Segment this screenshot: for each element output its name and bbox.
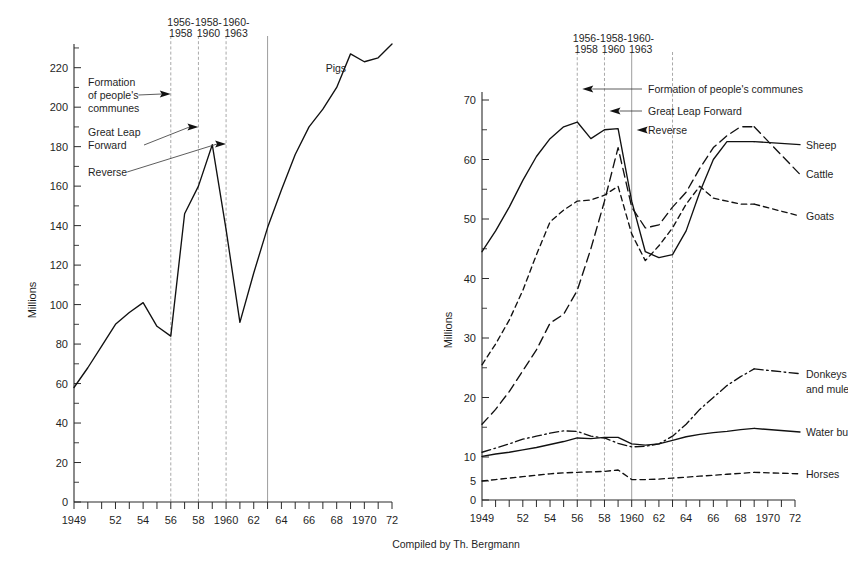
pigs-y-tick-label-20: 20	[56, 457, 68, 469]
chart-pigs-panel: 1956-19581958-19601960-1963 020406080100…	[0, 0, 424, 579]
livestock-series-group	[482, 122, 754, 481]
livestock-line-donkeys-and-mules	[482, 369, 754, 452]
pigs-x-tick-label-1960: 1960	[214, 514, 238, 526]
livestock-event-label-1956-line2: 1958	[575, 43, 599, 55]
livestock-line-horses	[482, 470, 754, 481]
pigs-x-tick-label-1952: 52	[109, 514, 121, 526]
livestock-x-tick-label-1968: 68	[734, 512, 746, 524]
pigs-annotation-leader-reverse	[127, 144, 217, 172]
livestock-y-tick-label-5: 5	[470, 475, 476, 487]
livestock-label-connector-water-buffalo	[754, 428, 800, 432]
pigs-y-tick-label-0: 0	[62, 496, 68, 508]
livestock-line-cattle	[482, 127, 754, 425]
livestock-line-water-buffalo	[482, 428, 754, 456]
livestock-x-tick-label-1958: 58	[598, 512, 610, 524]
pigs-x-tick-label-1949: 1949	[62, 514, 86, 526]
livestock-line-sheep	[482, 122, 754, 258]
livestock-y-tick-label-30: 30	[464, 332, 476, 344]
pigs-x-tick-label-1968: 68	[331, 514, 343, 526]
livestock-label-goats: Goats	[806, 210, 834, 222]
livestock-label-horses: Horses	[806, 468, 839, 480]
pigs-x-tick-label-1964: 64	[275, 514, 287, 526]
pigs-annotation-glf-line1: Great Leap	[88, 126, 141, 138]
pigs-y-tick-label-180: 180	[50, 141, 68, 153]
chart-livestock-panel: 1956-19581958-19601960-1963 051020304050…	[420, 0, 848, 579]
livestock-label-cattle: Cattle	[806, 168, 834, 180]
pigs-x-tick-label-1958: 58	[192, 514, 204, 526]
pigs-x-tick-label-1972: 72	[386, 514, 398, 526]
pigs-annotation-reverse-line1: Reverse	[88, 166, 127, 178]
livestock-y-axis-title: Millions	[442, 311, 454, 348]
pigs-x-tick-label-1956: 56	[165, 514, 177, 526]
pigs-y-tick-label-40: 40	[56, 417, 68, 429]
pigs-y-tick-label-200: 200	[50, 101, 68, 113]
livestock-x-tick-label-1960: 1960	[619, 512, 643, 524]
pigs-x-tick-label-1954: 54	[137, 514, 149, 526]
livestock-x-tick-label-1952: 52	[517, 512, 529, 524]
livestock-label-connector-goats	[754, 204, 800, 216]
livestock-event-label-1958-line2: 1960	[602, 43, 626, 55]
livestock-label-and-mules: and mules	[806, 383, 848, 395]
livestock-label-connector-horses	[754, 472, 800, 473]
livestock-x-tick-label-1970: 1970	[756, 512, 780, 524]
pigs-series-label: Pigs	[326, 62, 346, 74]
livestock-x-tick-label-1954: 54	[544, 512, 556, 524]
livestock-label-connector-donkeys-and-mules	[754, 369, 800, 374]
pigs-event-label-1956-line2: 1958	[169, 27, 193, 39]
pigs-y-tick-label-100: 100	[50, 299, 68, 311]
pigs-event-label-1960-line2: 1963	[224, 27, 248, 39]
livestock-x-tick-label-1956: 56	[571, 512, 583, 524]
livestock-x-tick-label-1949: 1949	[470, 512, 494, 524]
livestock-series-labels: SheepCattleGoatsDonkeysand mulesWater bu…	[754, 127, 848, 480]
pigs-y-tick-label-160: 160	[50, 180, 68, 192]
pigs-annotation-leader-glf	[144, 127, 189, 145]
livestock-y-tick-label-0: 0	[470, 494, 476, 506]
pigs-annotation-glf-line2: Forward	[88, 139, 127, 151]
pigs-y-axis-title: Millions	[26, 281, 38, 318]
pigs-x-tick-label-1970: 1970	[352, 514, 376, 526]
livestock-annotation-reverse: Reverse	[648, 124, 687, 136]
livestock-y-tick-label-50: 50	[464, 213, 476, 225]
pigs-y-tick-label-140: 140	[50, 220, 68, 232]
pigs-annotation-formation-line3: communes	[88, 102, 139, 114]
chart-livestock-svg: 1956-19581958-19601960-1963 051020304050…	[420, 0, 848, 579]
livestock-x-tick-label-1966: 66	[707, 512, 719, 524]
pigs-annotation-formation-line1: Formation	[88, 76, 135, 88]
livestock-annotations: Formation of people's communesGreat Leap…	[582, 83, 803, 136]
livestock-axes: 0510203040506070194952545658196062646668…	[464, 92, 801, 524]
livestock-x-tick-label-1972: 72	[789, 512, 801, 524]
livestock-y-tick-label-40: 40	[464, 273, 476, 285]
livestock-annotation-arrow-glf	[609, 108, 620, 115]
livestock-y-tick-label-10: 10	[464, 451, 476, 463]
livestock-x-tick-label-1964: 64	[680, 512, 692, 524]
figure-root: 1956-19581958-19601960-1963 020406080100…	[0, 0, 848, 579]
livestock-label-water-buffalo: Water buffalo	[806, 426, 848, 438]
livestock-annotation-formation: Formation of people's communes	[648, 83, 803, 95]
pigs-x-tick-label-1966: 66	[303, 514, 315, 526]
pigs-x-tick-label-1962: 62	[248, 514, 260, 526]
livestock-label-connector-cattle	[754, 127, 800, 175]
chart-pigs-svg: 1956-19581958-19601960-1963 020406080100…	[0, 0, 424, 579]
livestock-label-connector-sheep	[754, 142, 800, 145]
livestock-label-sheep: Sheep	[806, 139, 837, 151]
livestock-event-markers: 1956-19581958-19601960-1963	[573, 32, 673, 500]
livestock-x-tick-label-1962: 62	[653, 512, 665, 524]
pigs-axes: 0204060801001201401601802002201949525456…	[50, 44, 398, 526]
livestock-y-tick-label-20: 20	[464, 392, 476, 404]
livestock-y-tick-label-70: 70	[464, 94, 476, 106]
livestock-y-tick-label-60: 60	[464, 154, 476, 166]
pigs-annotation-formation-line2: of people's	[88, 89, 138, 101]
livestock-line-goats	[482, 186, 754, 364]
pigs-y-tick-label-220: 220	[50, 62, 68, 74]
livestock-annotation-arrow-formation	[582, 86, 593, 93]
pigs-y-tick-label-120: 120	[50, 259, 68, 271]
pigs-y-tick-label-80: 80	[56, 338, 68, 350]
livestock-label-donkeys: Donkeys	[806, 368, 847, 380]
pigs-event-markers: 1956-19581958-19601960-1963	[167, 16, 267, 502]
pigs-y-tick-label-60: 60	[56, 378, 68, 390]
pigs-annotations: Formationof people'scommunesGreat LeapFo…	[88, 76, 226, 178]
livestock-event-label-1960-line2: 1963	[629, 43, 653, 55]
pigs-annotation-leader-formation	[138, 94, 161, 95]
livestock-annotation-glf: Great Leap Forward	[648, 105, 742, 117]
pigs-event-label-1958-line2: 1960	[197, 27, 221, 39]
